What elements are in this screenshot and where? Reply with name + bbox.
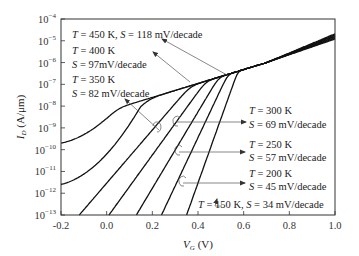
svg-text:ID (A/μm): ID (A/μm) <box>14 95 28 141</box>
x-axis-label: VG (V) <box>183 238 213 252</box>
annotation-400k-s: S = 97mV/decade <box>72 59 147 70</box>
x-tick-label: 0.4 <box>191 220 205 231</box>
annotation-350k-s: S = 82 mV/decade <box>72 88 150 99</box>
annotation-300k-t: T = 300 K <box>249 105 292 116</box>
x-tick-label: 0.0 <box>100 220 113 231</box>
y-tick-label: 10−9 <box>38 121 56 134</box>
x-tick-label: -0.2 <box>53 220 70 231</box>
x-tick-label: 0.8 <box>283 220 296 231</box>
annotation-200k-t: T = 200 K <box>249 168 292 179</box>
y-tick-label: 10−5 <box>38 34 56 47</box>
y-tick-label: 10−4 <box>38 12 56 25</box>
annotation-400k-t: T = 400 K <box>72 45 115 56</box>
x-tick-label: 0.6 <box>237 220 250 231</box>
y-tick-label: 10−12 <box>35 186 57 199</box>
chart: -0.20.00.20.40.60.81.0 10−410−510−610−71… <box>0 0 359 256</box>
y-tick-label: 10−6 <box>38 56 56 69</box>
y-axis-label: ID (A/μm) <box>14 95 28 141</box>
svg-text:VG (V): VG (V) <box>183 238 213 252</box>
y-tick-label: 10−7 <box>38 77 56 90</box>
annotation-250k-t: T = 250 K <box>249 139 292 150</box>
annotation-300k-s: S = 69 mV/decade <box>249 119 327 130</box>
x-tick-label: 1.0 <box>328 220 341 231</box>
annotation-450k: T = 450 K, S = 118 mV/decade <box>72 29 203 40</box>
y-tick-label: 10−10 <box>35 143 57 156</box>
x-axis-ticks: -0.20.00.20.40.60.81.0 <box>53 211 342 231</box>
annotation-150k: T = 150 K, S = 34 mV/decade <box>198 199 324 210</box>
x-tick-label: 0.2 <box>146 220 159 231</box>
y-axis-ticks: 10−410−510−610−710−810−910−1010−1110−121… <box>35 12 65 221</box>
annotation-350k-t: T = 350 K <box>72 74 115 85</box>
y-tick-label: 10−11 <box>35 164 57 177</box>
annotation-250k-s: S = 57 mV/decade <box>249 152 327 163</box>
annotation-200k-s: S = 45 mV/decade <box>249 181 327 192</box>
y-tick-label: 10−8 <box>38 99 56 112</box>
